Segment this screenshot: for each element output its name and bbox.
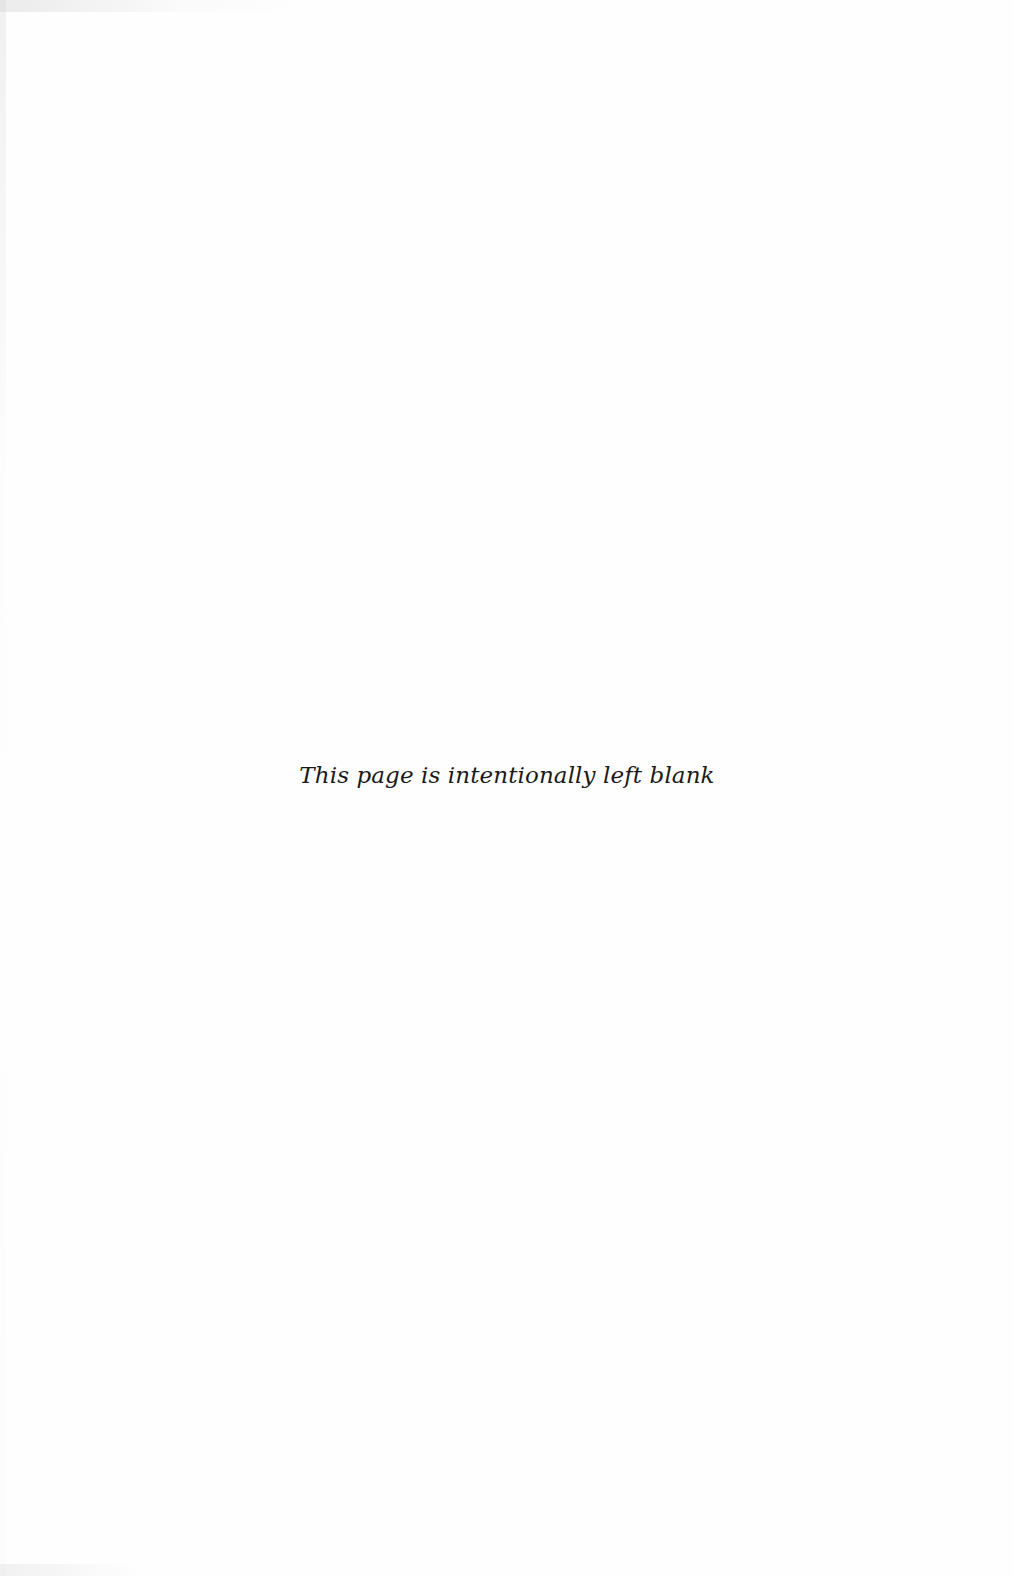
blank-page: This page is intentionally left blank <box>0 0 1014 1576</box>
scan-artifact-left <box>0 0 6 1576</box>
scan-artifact-top <box>0 0 300 12</box>
scan-artifact-bottom <box>0 1564 140 1576</box>
blank-page-notice: This page is intentionally left blank <box>0 762 1014 788</box>
